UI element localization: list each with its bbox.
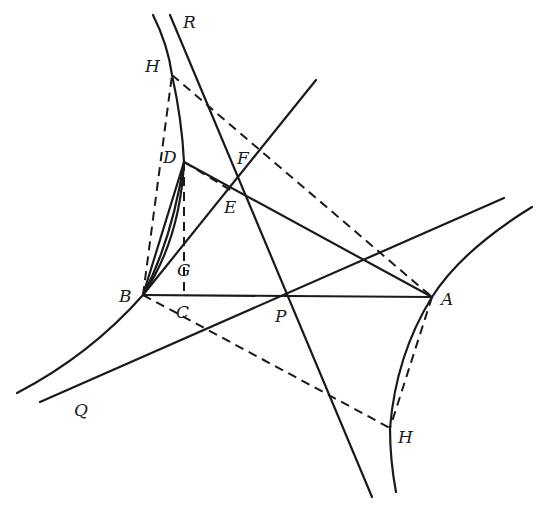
hyperbola-branch-right — [390, 207, 532, 492]
label-H-bottom: H — [397, 427, 414, 447]
label-G: G — [177, 260, 191, 280]
dashed-D-E — [184, 162, 232, 191]
diagram-svg: R H D F E G B C P A Q H — [0, 0, 554, 506]
label-D: D — [162, 147, 177, 167]
line-Q — [40, 198, 504, 402]
dashed-A-Hbottom — [390, 297, 432, 428]
segment-BA — [143, 295, 432, 297]
geometry-diagram: R H D F E G B C P A Q H — [0, 0, 554, 506]
line-R — [170, 15, 372, 497]
label-R: R — [182, 12, 196, 32]
label-H-top: H — [144, 56, 161, 76]
dashed-Htop-A — [172, 75, 432, 297]
label-A: A — [439, 289, 453, 309]
label-C: C — [176, 302, 189, 322]
label-E: E — [223, 197, 237, 217]
label-P: P — [274, 306, 287, 326]
segment-DA — [184, 162, 432, 297]
label-Q: Q — [74, 400, 88, 420]
label-B: B — [118, 286, 132, 306]
label-F: F — [236, 148, 250, 168]
